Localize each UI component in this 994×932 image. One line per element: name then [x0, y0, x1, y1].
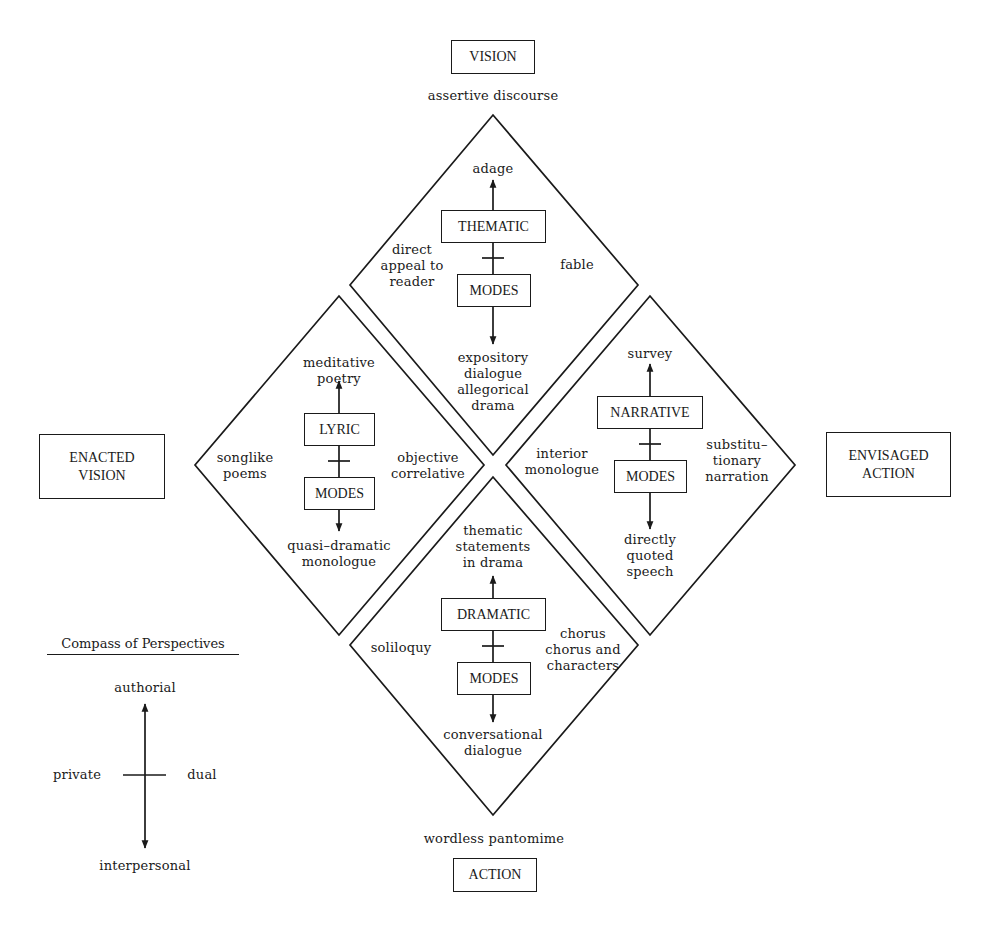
dramatic-modes-box: MODES	[457, 662, 531, 695]
compass-of-modes-diagram: VISION assertive discourse ACTION wordle…	[0, 0, 994, 932]
narrative-bottom-label: directly quoted speech	[624, 532, 676, 580]
vision-box: VISION	[451, 40, 535, 74]
narrative-modes-box: MODES	[614, 460, 687, 493]
thematic-bottom-label: expository dialogue allegorical drama	[457, 350, 529, 414]
dramatic-bottom-label: conversational dialogue	[443, 727, 542, 759]
assertive-discourse-label: assertive discourse	[428, 88, 559, 104]
thematic-top-label: adage	[473, 161, 514, 177]
legend-authorial-label: authorial	[114, 680, 176, 696]
thematic-box: THEMATIC	[441, 210, 546, 243]
lyric-top-label: meditative poetry	[303, 355, 375, 387]
legend-interpersonal-label: interpersonal	[99, 858, 190, 874]
narrative-left-label: interior monologue	[525, 446, 600, 478]
envisaged-action-box: ENVISAGED ACTION	[826, 432, 951, 497]
narrative-top-label: survey	[628, 346, 673, 362]
enacted-vision-box: ENACTED VISION	[39, 434, 165, 499]
thematic-modes-box: MODES	[457, 274, 531, 307]
thematic-right-label: fable	[560, 257, 594, 273]
lyric-modes-box: MODES	[304, 477, 375, 510]
dramatic-right-label: chorus chorus and characters	[545, 626, 620, 674]
lyric-box: LYRIC	[304, 413, 375, 446]
dramatic-box: DRAMATIC	[441, 598, 546, 631]
dramatic-top-label: thematic statements in drama	[456, 523, 531, 571]
narrative-box: NARRATIVE	[597, 396, 703, 429]
thematic-left-label: direct appeal to reader	[381, 242, 444, 290]
legend-title: Compass of Perspectives	[47, 636, 239, 655]
legend-dual-label: dual	[187, 767, 216, 783]
lyric-right-label: objective correlative	[391, 450, 465, 482]
wordless-pantomime-label: wordless pantomime	[424, 831, 564, 847]
action-box: ACTION	[453, 858, 537, 892]
lyric-left-label: songlike poems	[217, 450, 274, 482]
dramatic-left-label: soliloquy	[371, 640, 432, 656]
legend-private-label: private	[53, 767, 101, 783]
lyric-bottom-label: quasi–dramatic monologue	[287, 538, 391, 570]
narrative-right-label: substitu– tionary narration	[705, 437, 769, 485]
